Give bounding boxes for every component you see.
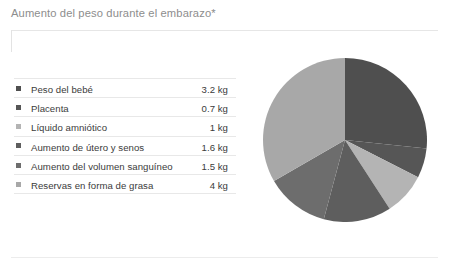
- page-title: Aumento del peso durante el embarazo*: [11, 7, 216, 19]
- pie-chart-svg: [263, 58, 427, 222]
- legend-row: Líquido amniótico1 kg: [14, 117, 236, 136]
- legend-color-swatch-icon: [16, 163, 21, 168]
- legend-value-cell: 1.5 kg: [196, 155, 236, 174]
- legend-row: Peso del bebé3.2 kg: [14, 79, 236, 98]
- legend-row: Aumento de útero y senos1.6 kg: [14, 136, 236, 155]
- legend-label-cell: Aumento de útero y senos: [31, 136, 196, 155]
- legend-label: Placenta: [31, 103, 69, 114]
- legend-value-cell: 1 kg: [196, 117, 236, 136]
- legend-label: Aumento de útero y senos: [31, 142, 144, 153]
- legend-value-cell: 0.7 kg: [196, 98, 236, 117]
- legend-table: Peso del bebé3.2 kgPlacenta0.7 kgLíquido…: [14, 78, 236, 194]
- legend-value: 1 kg: [210, 122, 228, 133]
- legend-swatch-cell: [14, 136, 31, 155]
- panel-bottom-divider: [11, 257, 438, 258]
- legend-label-cell: Placenta: [31, 98, 196, 117]
- legend-color-swatch-icon: [16, 143, 21, 148]
- weight-gain-pregnancy-figure: Aumento del peso durante el embarazo* Pe…: [0, 0, 449, 268]
- legend-color-swatch-icon: [16, 182, 21, 187]
- legend-row: Placenta0.7 kg: [14, 98, 236, 117]
- legend-label: Reservas en forma de grasa: [31, 180, 153, 191]
- legend-color-swatch-icon: [16, 86, 21, 91]
- legend-label: Peso del bebé: [31, 84, 93, 95]
- legend-swatch-cell: [14, 155, 31, 174]
- legend-label-cell: Líquido amniótico: [31, 117, 196, 136]
- legend-value: 4 kg: [210, 180, 228, 191]
- legend-label: Líquido amniótico: [31, 122, 107, 133]
- legend-color-swatch-icon: [16, 124, 21, 129]
- legend-row: Aumento del volumen sanguíneo1.5 kg: [14, 155, 236, 174]
- legend-swatch-cell: [14, 117, 31, 136]
- legend-row: Reservas en forma de grasa4 kg: [14, 174, 236, 193]
- legend-value-cell: 3.2 kg: [196, 79, 236, 98]
- panel-top-divider: [11, 30, 438, 31]
- legend-label-cell: Reservas en forma de grasa: [31, 174, 196, 193]
- legend-swatch-cell: [14, 174, 31, 193]
- legend-value-cell: 1.6 kg: [196, 136, 236, 155]
- legend-value: 1.6 kg: [202, 142, 228, 153]
- legend-label-cell: Aumento del volumen sanguíneo: [31, 155, 196, 174]
- pie-slice: [345, 58, 427, 149]
- legend-swatch-cell: [14, 79, 31, 98]
- legend-label-cell: Peso del bebé: [31, 79, 196, 98]
- legend-value: 0.7 kg: [202, 103, 228, 114]
- pie-chart: [263, 58, 427, 222]
- legend-value-cell: 4 kg: [196, 174, 236, 193]
- panel-left-divider: [11, 30, 12, 52]
- legend-label: Aumento del volumen sanguíneo: [31, 161, 173, 172]
- legend-value: 3.2 kg: [202, 84, 228, 95]
- legend-value: 1.5 kg: [202, 161, 228, 172]
- legend-color-swatch-icon: [16, 105, 21, 110]
- legend-body: Peso del bebé3.2 kgPlacenta0.7 kgLíquido…: [14, 79, 236, 194]
- legend-swatch-cell: [14, 98, 31, 117]
